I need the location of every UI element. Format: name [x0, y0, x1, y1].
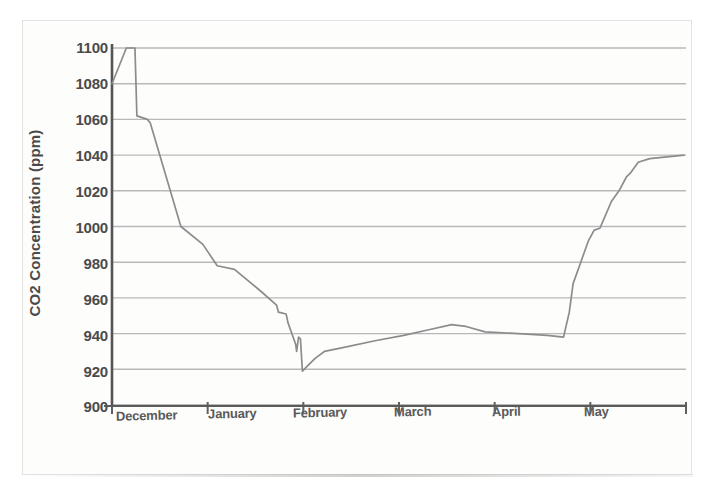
screenshot-root: CO2 Concentration (ppm) 1100 1080 1060 1… [0, 0, 716, 497]
plot-canvas [0, 0, 716, 497]
co2-line-chart: CO2 Concentration (ppm) 1100 1080 1060 1… [0, 0, 716, 497]
co2-data-line [112, 48, 684, 371]
x-axis-ticks [112, 402, 686, 414]
